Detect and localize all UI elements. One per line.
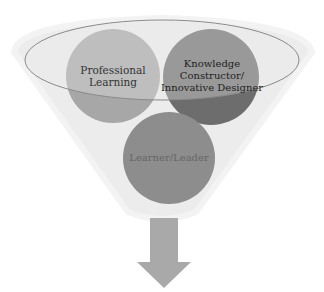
down-arrow-icon <box>137 218 191 288</box>
label-line: Learning <box>73 76 153 88</box>
label-learner-leader: Learner/Leader <box>124 152 214 164</box>
label-professional-learning: Professional Learning <box>73 64 153 88</box>
label-line: Knowledge <box>160 58 264 70</box>
label-line: Constructor/ <box>160 70 264 82</box>
label-line: Professional <box>73 64 153 76</box>
funnel-diagram <box>0 0 324 292</box>
label-knowledge-constructor: Knowledge Constructor/ Innovative Design… <box>160 58 264 94</box>
label-line: Learner/Leader <box>124 152 214 164</box>
label-line: Innovative Designer <box>160 82 264 94</box>
